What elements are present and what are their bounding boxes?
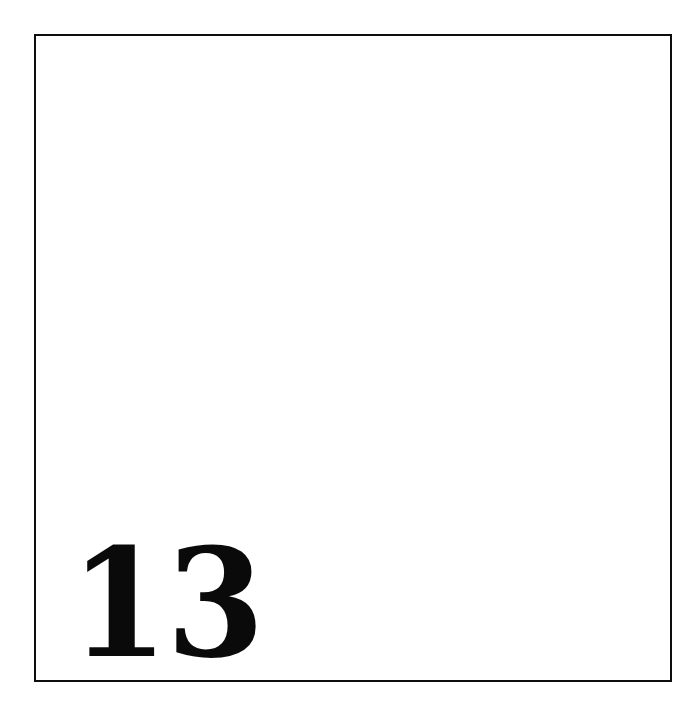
page-number-text: 13 (70, 546, 263, 660)
page-number: 13 (70, 546, 275, 660)
scanned-page: 13 (0, 0, 688, 721)
page-border-rule: 13 (34, 34, 672, 682)
